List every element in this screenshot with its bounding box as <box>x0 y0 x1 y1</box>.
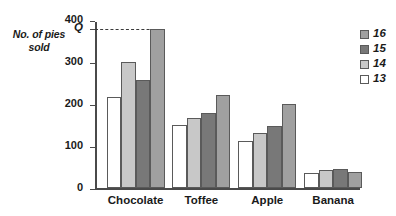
bar-toffee-13 <box>172 125 187 188</box>
bar-apple-16 <box>282 104 297 188</box>
y-tick-200: 200 <box>90 105 95 106</box>
y-tick-label-100: 100 <box>65 139 83 151</box>
bar-apple-13 <box>238 141 253 189</box>
legend-swatch-15 <box>360 45 369 54</box>
bar-group-banana: Banana <box>304 22 362 188</box>
bar-toffee-16 <box>216 95 231 188</box>
legend-swatch-14 <box>360 60 369 69</box>
legend-label-14: 14 <box>373 58 386 70</box>
y-axis-caption: No. of pies sold <box>2 28 76 54</box>
bar-toffee-15 <box>201 113 216 189</box>
x-axis-label-chocolate: Chocolate <box>108 194 164 206</box>
bar-group-apple: Apple <box>238 22 296 188</box>
y-tick-label-200: 200 <box>65 97 83 109</box>
bar-apple-14 <box>253 133 268 189</box>
bar-chocolate-14 <box>121 62 136 189</box>
legend-item-16[interactable]: 16 <box>360 27 396 41</box>
y-tick-300: 300 <box>90 63 95 64</box>
bar-chocolate-15 <box>136 80 151 189</box>
y-tick-label-0: 0 <box>77 181 83 193</box>
bar-group-toffee: Toffee <box>172 22 230 188</box>
plot-area: 0100200300400 Q ChocolateToffeeAppleBana… <box>95 22 360 190</box>
y-tick-0: 0 <box>90 189 95 190</box>
q-tick-label: Q <box>74 21 83 33</box>
legend-item-15[interactable]: 15 <box>360 42 396 56</box>
bar-group-chocolate: Chocolate <box>107 22 165 188</box>
legend-label-15: 15 <box>373 43 386 55</box>
y-tick-label-300: 300 <box>65 55 83 67</box>
x-axis-label-apple: Apple <box>251 194 283 206</box>
bar-banana-14 <box>319 170 334 188</box>
bar-banana-13 <box>304 173 319 189</box>
bar-banana-16 <box>348 172 363 188</box>
legend-label-16: 16 <box>373 28 386 40</box>
x-axis-label-toffee: Toffee <box>185 194 219 206</box>
y-tick-400: 400 <box>90 21 95 22</box>
bar-groups: ChocolateToffeeAppleBanana <box>97 22 360 188</box>
legend-swatch-13 <box>360 75 369 84</box>
y-tick-100: 100 <box>90 147 95 148</box>
legend-item-13[interactable]: 13 <box>360 72 396 86</box>
legend-item-14[interactable]: 14 <box>360 57 396 71</box>
x-axis-line <box>95 188 360 190</box>
bar-chocolate-13 <box>107 97 122 189</box>
legend-label-13: 13 <box>373 73 386 85</box>
bar-toffee-14 <box>187 118 202 189</box>
legend-swatch-16 <box>360 30 369 39</box>
chart-legend: 16151413 <box>360 27 396 87</box>
bar-chocolate-16 <box>150 29 165 189</box>
x-axis-label-banana: Banana <box>312 194 354 206</box>
bar-chart: No. of pies sold 0100200300400 Q Chocola… <box>0 0 396 216</box>
bar-apple-15 <box>267 126 282 188</box>
bar-banana-15 <box>333 169 348 188</box>
